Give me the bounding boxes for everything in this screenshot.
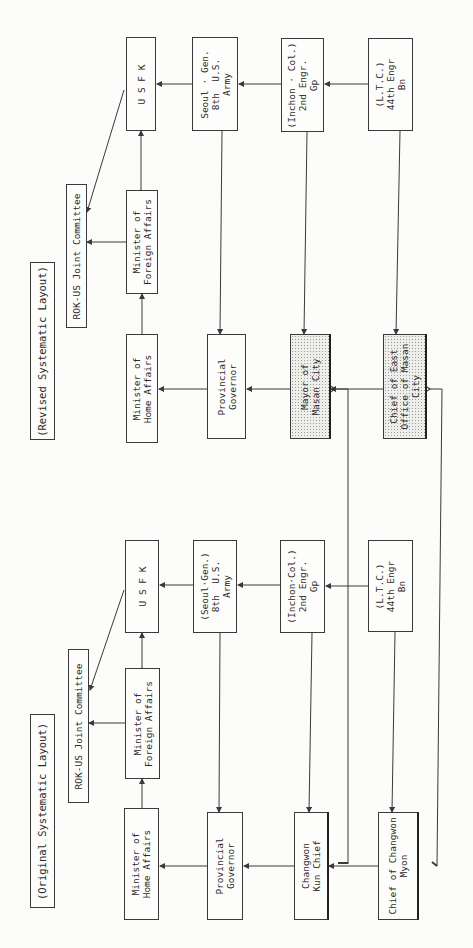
node-mayor-masan-city: Mayor of Masan City — [290, 334, 331, 439]
revised-layout-title: (Revised Systematic Layout) — [30, 262, 55, 440]
node-8th-us-army-original: (Seoul·Gen.) 8th U.S. Army — [193, 540, 237, 633]
node-minister-home-affairs-revised: Minister of Home Affairs — [126, 334, 158, 443]
node-rok-us-joint-committee-revised: ROK-US Joint Committee — [66, 184, 87, 328]
node-usfk-original: U S F K — [125, 540, 159, 633]
connector-lines — [0, 0, 473, 948]
node-2nd-engr-gp-revised: (Inchon · Col.) 2nd Engr. Gp — [281, 38, 324, 132]
node-minister-home-affairs-original: Minister of Home Affairs — [124, 808, 159, 920]
node-2nd-engr-gp-original: (Inchon·Col.) 2nd Engr. Gp — [280, 540, 325, 633]
node-usfk-revised: U S F K — [126, 37, 156, 131]
original-layout-title: (Original Systematic Layout) — [30, 714, 55, 908]
node-changwon-kun-chief: Changwon Kun Chief — [294, 812, 329, 920]
node-8th-us-army-revised: Seoul · Gen. 8th U.S. Army — [192, 37, 238, 131]
node-provincial-governor-revised: Provincial Governor — [207, 334, 246, 439]
node-44th-engr-bn-original: (L.T.C.) 44th Engr Bn — [368, 540, 413, 632]
node-minister-foreign-affairs-original: Minister of Foreign Affairs — [125, 668, 160, 779]
node-chief-east-office-masan: Chief of East Office of Masan City — [383, 334, 427, 439]
node-minister-foreign-affairs-revised: Minister of Foreign Affairs — [126, 190, 158, 294]
node-rok-us-joint-committee-original: ROK-US Joint Committee — [68, 649, 89, 803]
node-provincial-governor-original: Provincial Governor — [207, 812, 243, 920]
node-44th-engr-bn-revised: (L.T.C.) 44th Engr Bn — [368, 38, 413, 131]
node-chief-changwon-myon: Chief of Changwon Myon — [378, 812, 419, 920]
